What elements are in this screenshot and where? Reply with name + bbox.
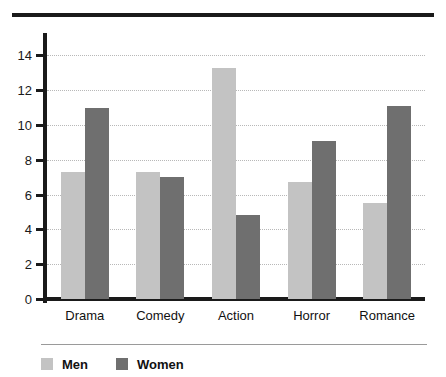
legend-swatch-women	[116, 358, 128, 370]
bars-group	[0, 30, 446, 305]
bar-drama-men	[61, 172, 85, 299]
legend-item-men: Men	[41, 358, 88, 371]
x-axis-label-comedy: Comedy	[120, 308, 200, 323]
bar-horror-men	[288, 182, 312, 299]
bar-drama-women	[85, 108, 109, 299]
top-divider-rule	[12, 13, 434, 17]
legend-label-women: Women	[137, 358, 184, 371]
legend-item-women: Women	[116, 358, 184, 371]
legend-divider-rule	[41, 344, 427, 345]
bar-romance-men	[363, 203, 387, 299]
legend-swatch-men	[41, 358, 53, 370]
bar-chart-figure: 02468101214 DramaComedyActionHorrorRoman…	[0, 0, 446, 377]
x-axis-label-romance: Romance	[347, 308, 427, 323]
bar-action-women	[236, 215, 260, 299]
x-axis-label-drama: Drama	[45, 308, 125, 323]
bar-action-men	[212, 68, 236, 299]
plot-area: 02468101214	[0, 30, 446, 305]
bar-comedy-women	[160, 177, 184, 299]
bar-comedy-men	[136, 172, 160, 299]
bar-horror-women	[312, 141, 336, 299]
x-axis-label-horror: Horror	[272, 308, 352, 323]
bar-romance-women	[387, 106, 411, 299]
x-axis-label-action: Action	[196, 308, 276, 323]
chart-legend: MenWomen	[41, 355, 212, 373]
legend-label-men: Men	[62, 358, 88, 371]
